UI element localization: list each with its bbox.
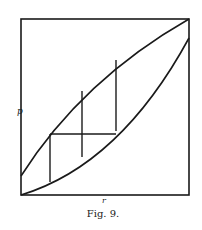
x-axis-label: r [102, 197, 106, 205]
upper-curve [21, 19, 189, 176]
lower-curve [21, 38, 189, 195]
figure-caption: Fig. 9. [0, 208, 202, 219]
diagram-plot [0, 0, 202, 230]
y-axis-label: p [17, 107, 23, 116]
plot-frame [21, 19, 189, 195]
figure-9: p r Fig. 9. [0, 0, 202, 230]
